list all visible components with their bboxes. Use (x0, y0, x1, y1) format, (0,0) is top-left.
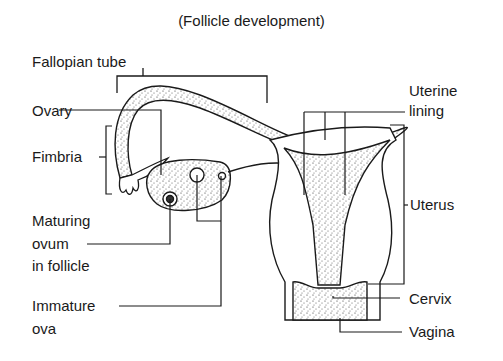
label-immature-ova-1: Immature (32, 297, 95, 315)
label-uterine-lining-2: lining (409, 102, 444, 120)
fimbria-bracket (99, 126, 112, 194)
uterus (270, 127, 396, 320)
label-fimbria: Fimbria (32, 148, 82, 166)
label-uterus: Uterus (410, 196, 454, 214)
label-maturing-ovum-3: in follicle (32, 257, 90, 275)
maturing-ovum-leader (87, 199, 170, 244)
label-fallopian-tube: Fallopian tube (32, 53, 126, 71)
label-uterine-lining-1: Uterine (409, 82, 457, 100)
label-maturing-ovum-1: Maturing (32, 212, 90, 230)
label-ovary: Ovary (32, 102, 72, 120)
label-immature-ova-2: ova (32, 320, 56, 338)
label-maturing-ovum-2: ovum (32, 235, 69, 253)
label-vagina: Vagina (409, 323, 455, 341)
follicle-diagram: (Follicle development) (0, 0, 503, 361)
label-cervix: Cervix (409, 290, 452, 308)
